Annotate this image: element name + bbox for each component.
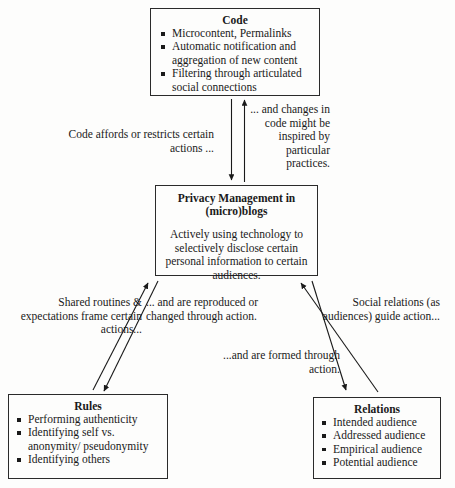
list-item: Intended audience — [320, 416, 434, 429]
node-title-privacy-line2: (micro)blogs — [162, 205, 311, 218]
edge-label-social-relations: Social relations (as audiences) guide ac… — [318, 296, 440, 323]
node-body-privacy: Actively using technology to selectively… — [162, 228, 311, 282]
node-title-privacy-line1: Privacy Management in — [162, 192, 311, 205]
edge-label-reproduced-changed: ... and are reproduced or changed throug… — [146, 296, 286, 323]
list-item: Performing authenticity — [15, 413, 161, 426]
list-item: Potential audience — [320, 456, 434, 469]
edge-label-code-changes: ... and changes in code might be inspire… — [248, 103, 330, 171]
node-bullet-list-code: Microcontent, Permalinks Automatic notif… — [159, 27, 311, 94]
node-bullet-list-rules: Performing authenticity Identifying self… — [15, 413, 161, 467]
node-box-privacy-management: Privacy Management in (micro)blogs Activ… — [155, 185, 318, 276]
node-title-code: Code — [159, 14, 311, 27]
edge-label-shared-routines: Shared routines & expectations frame cer… — [12, 296, 142, 337]
list-item: Automatic notification and aggregation o… — [159, 40, 311, 67]
list-item: Addressed audience — [320, 429, 434, 442]
list-item: Filtering through articulated social con… — [159, 67, 311, 94]
list-item: Identifying others — [15, 453, 161, 466]
node-box-rules: Rules Performing authenticity Identifyin… — [8, 394, 168, 479]
node-box-code: Code Microcontent, Permalinks Automatic … — [150, 8, 320, 96]
node-title-relations: Relations — [320, 403, 434, 416]
node-title-rules: Rules — [15, 400, 161, 413]
spacer — [162, 218, 311, 228]
node-box-relations: Relations Intended audience Addressed au… — [313, 397, 441, 479]
list-item: Microcontent, Permalinks — [159, 27, 311, 40]
edge-label-formed-through-action: ...and are formed through action. — [208, 349, 340, 376]
diagram-canvas: Code Microcontent, Permalinks Automatic … — [0, 0, 455, 488]
node-bullet-list-relations: Intended audience Addressed audience Emp… — [320, 416, 434, 470]
list-item: Empirical audience — [320, 443, 434, 456]
list-item: Identifying self vs. anonymity/ pseudony… — [15, 426, 161, 453]
edge-label-code-affords: Code affords or restricts certain action… — [36, 128, 214, 155]
